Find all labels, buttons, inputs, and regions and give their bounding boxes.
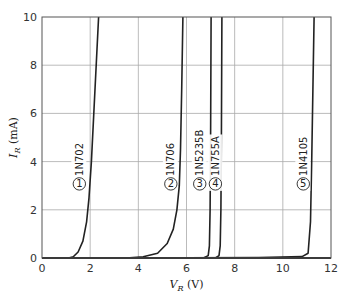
x-axis-ticks: 024681012: [39, 262, 339, 275]
curve-name: 1N755A: [210, 136, 221, 176]
curve-name: 1N5235B: [194, 130, 205, 176]
y-tick-label: 4: [30, 156, 37, 169]
x-axis-label: VR (V): [169, 278, 203, 293]
curve-1N706: [42, 17, 183, 258]
curve-name: 1N706: [165, 143, 176, 176]
grid-lines: [42, 17, 331, 258]
y-tick-label: 6: [30, 107, 37, 120]
x-tick-label: 10: [276, 262, 290, 275]
y-axis-ticks: 0246810: [23, 11, 37, 265]
y-tick-label: 10: [23, 11, 37, 24]
curve-labels: 11N70221N70631N5235B41N755A51N4105: [71, 128, 310, 191]
y-tick-label: 2: [30, 204, 37, 217]
svg-text:4: 4: [212, 178, 218, 189]
x-tick-label: 8: [231, 262, 238, 275]
svg-text:5: 5: [300, 178, 306, 189]
svg-text:3: 3: [197, 178, 203, 189]
curve-1N4105: [42, 17, 314, 258]
x-tick-label: 12: [324, 262, 338, 275]
x-tick-label: 6: [183, 262, 190, 275]
x-tick-label: 4: [135, 262, 142, 275]
curve-name: 1N702: [74, 143, 85, 176]
curve-name: 1N4105: [298, 137, 309, 176]
y-tick-label: 0: [30, 252, 37, 265]
x-tick-label: 0: [39, 262, 46, 275]
label-1N5235B: 31N5235B: [192, 128, 207, 191]
x-tick-label: 2: [87, 262, 94, 275]
curves: [42, 17, 314, 258]
zener-iv-chart: 11N70221N70631N5235B41N755A51N4105 02468…: [0, 0, 349, 295]
svg-text:2: 2: [168, 178, 174, 189]
label-1N755A: 41N755A: [207, 134, 222, 190]
svg-text:1: 1: [76, 178, 82, 189]
y-axis-label: IR (mA): [7, 117, 22, 159]
label-1N702: 11N702: [71, 141, 86, 191]
label-1N4105: 51N4105: [295, 134, 310, 190]
label-1N706: 21N706: [163, 141, 178, 191]
curve-1N5235B: [42, 17, 211, 258]
y-tick-label: 8: [30, 59, 37, 72]
